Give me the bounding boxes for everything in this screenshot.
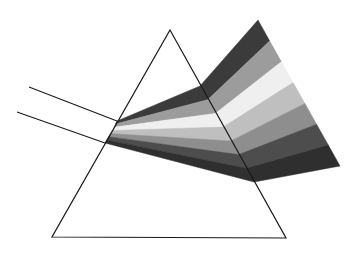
prism-dispersion-diagram [0,0,354,255]
incident-ray-1 [29,87,117,121]
diagram-canvas [0,0,354,255]
incident-ray-2 [17,112,105,143]
spectrum-bands [105,20,340,182]
incident-rays [17,87,117,143]
